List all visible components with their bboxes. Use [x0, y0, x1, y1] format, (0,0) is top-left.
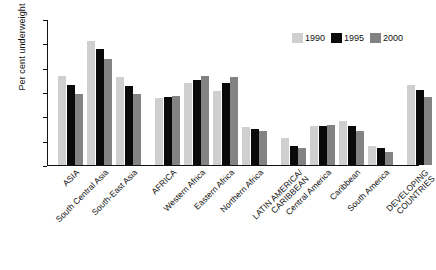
bar: [87, 41, 95, 165]
legend-swatch: [292, 33, 303, 43]
x-axis-category-label: ASIA: [61, 168, 81, 188]
y-axis-tick: [43, 69, 47, 70]
y-axis-tick: [43, 44, 47, 45]
bar: [356, 131, 364, 165]
bar-group: [184, 20, 211, 165]
bar: [319, 126, 327, 165]
bar: [104, 59, 112, 165]
bar-group: [116, 20, 143, 165]
bar-group: [242, 20, 269, 165]
bar: [116, 77, 124, 165]
bar-group: [407, 20, 434, 165]
bar: [133, 94, 141, 165]
bar: [259, 131, 267, 165]
bar: [368, 146, 376, 165]
bar: [213, 91, 221, 165]
bar: [155, 98, 163, 165]
y-axis-tick: [43, 93, 47, 94]
bar: [407, 85, 415, 165]
bar-group: [58, 20, 85, 165]
bar: [125, 86, 133, 165]
x-axis-category-labels: ASIASouth Central AsiaSouth-East AsiaAFR…: [47, 168, 419, 268]
legend-swatch: [370, 33, 381, 43]
bar: [348, 126, 356, 165]
bar: [58, 76, 66, 165]
bar-group: [155, 20, 182, 165]
bar: [377, 148, 385, 165]
bar: [281, 138, 289, 165]
legend: 199019952000: [292, 33, 407, 43]
bar-group: [213, 20, 240, 165]
bar: [290, 146, 298, 165]
bar: [251, 129, 259, 166]
y-axis-tick: [43, 142, 47, 143]
bar: [184, 83, 192, 165]
y-axis-tick: [43, 20, 47, 21]
bar: [385, 152, 393, 165]
bar: [416, 90, 424, 165]
bar: [75, 94, 83, 165]
bar: [96, 49, 104, 165]
legend-item: 2000: [370, 33, 403, 43]
bar: [164, 97, 172, 165]
bar: [193, 80, 201, 165]
legend-item: 1990: [292, 33, 325, 43]
bar: [339, 121, 347, 165]
bar: [242, 127, 250, 165]
bar: [201, 76, 209, 165]
y-axis-title: Per cent underweight: [17, 0, 27, 117]
bar: [67, 85, 75, 165]
bar-group: [87, 20, 114, 165]
legend-label: 1990: [305, 33, 325, 43]
bar: [172, 96, 180, 165]
legend-label: 2000: [383, 33, 403, 43]
bar: [327, 125, 335, 165]
y-axis-tick: [43, 166, 47, 167]
bar: [222, 83, 230, 165]
x-axis-category-label: DEVELOPING COUNTRIES: [384, 168, 436, 220]
bar: [424, 97, 432, 165]
bar: [230, 77, 238, 165]
y-axis-tick: [43, 117, 47, 118]
legend-label: 1995: [344, 33, 364, 43]
bar: [310, 126, 318, 165]
legend-swatch: [331, 33, 342, 43]
bar: [298, 148, 306, 165]
legend-item: 1995: [331, 33, 364, 43]
